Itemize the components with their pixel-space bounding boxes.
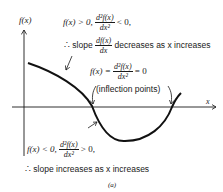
pointer-concave-up <box>88 122 97 128</box>
fraction-numerator: d²f(x) <box>113 62 133 72</box>
fraction-denominator: dx² <box>59 150 79 159</box>
first-derivative-fraction: df(x) dx <box>95 36 112 55</box>
pointer-concave-down <box>66 56 72 70</box>
bottom-condition: f(x) < 0, d²f(x) dx² > 0, <box>27 140 95 159</box>
second-derivative-fraction: d²f(x) dx² <box>113 62 133 81</box>
inflection-lhs: f(x) = <box>90 66 111 76</box>
bottom-condition-lhs: f(x) < 0, <box>27 144 57 154</box>
figure-caption: (a) <box>108 180 116 190</box>
inflection-equation: f(x) = d²f(x) dx² = 0 <box>90 62 147 81</box>
therefore-slope: ∴ slope <box>64 40 93 50</box>
fraction-denominator: dx² <box>113 72 133 81</box>
bottom-condition-rhs: > 0, <box>81 144 95 154</box>
second-derivative-fraction: d²f(x) dx² <box>95 13 115 32</box>
conclusion-text: decreases as x increases <box>115 40 211 50</box>
top-condition: f(x) > 0, d²f(x) dx² < 0, <box>63 13 131 32</box>
fraction-numerator: df(x) <box>95 36 112 46</box>
x-axis-label: x <box>206 97 210 107</box>
fraction-denominator: dx² <box>95 23 115 32</box>
second-derivative-fraction: d²f(x) dx² <box>59 140 79 159</box>
top-conclusion: ∴ slope df(x) dx decreases as x increase… <box>64 36 210 55</box>
inflection-rhs: = 0 <box>135 66 147 76</box>
bottom-conclusion: ∴ slope increases as x increases <box>25 164 149 174</box>
top-condition-rhs: < 0, <box>117 17 131 27</box>
top-condition-lhs: f(x) > 0, <box>63 17 93 27</box>
fraction-numerator: d²f(x) <box>95 13 115 23</box>
pointer-inflection-right <box>168 86 172 104</box>
fraction-denominator: dx <box>95 46 112 55</box>
fraction-numerator: d²f(x) <box>59 140 79 150</box>
inflection-note: (inflection points) <box>96 84 160 94</box>
y-axis-label: f(x) <box>19 15 32 25</box>
